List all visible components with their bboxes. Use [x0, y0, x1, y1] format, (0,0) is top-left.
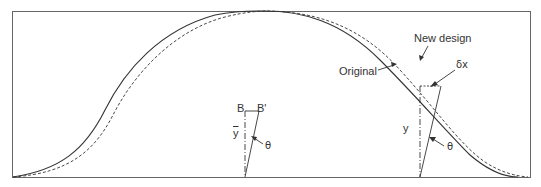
left-rotated-line: [245, 111, 259, 177]
new-design-arrowhead: [419, 55, 424, 61]
diagram-svg: [0, 0, 541, 187]
label-point-b: B: [237, 103, 244, 114]
theta-right-leader: [433, 139, 444, 146]
label-point-b-prime: B': [257, 103, 266, 114]
diagram-canvas: New design Original δx y θ B B' y θ: [0, 0, 541, 187]
new-design-leader: [422, 46, 428, 57]
label-y-bar: y: [233, 128, 239, 139]
label-y: y: [403, 123, 409, 134]
label-theta-left: θ: [265, 141, 271, 151]
theta-left-arrowhead: [251, 136, 257, 141]
label-new-design: New design: [414, 33, 471, 44]
theta-right-arrowhead: [429, 137, 436, 142]
original-arrowhead: [391, 62, 397, 67]
label-original: Original: [339, 66, 377, 77]
delta-x-leader: [435, 70, 455, 84]
right-rotated-line: [420, 86, 441, 177]
label-theta-right: θ: [447, 142, 453, 152]
label-delta-x: δx: [456, 60, 468, 70]
